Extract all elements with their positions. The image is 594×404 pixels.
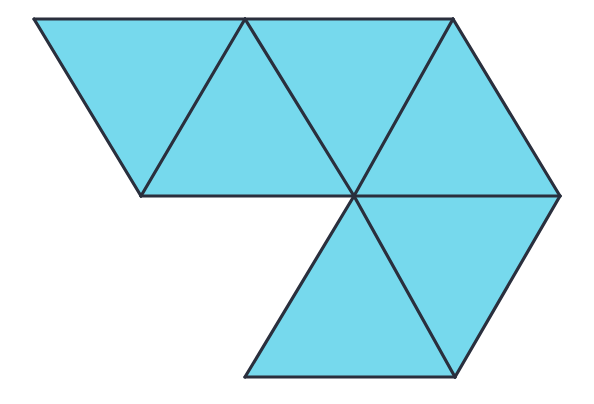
figure-canvas <box>0 0 594 404</box>
triangle-faces-group <box>34 19 560 377</box>
triangle-net-figure <box>0 0 594 404</box>
